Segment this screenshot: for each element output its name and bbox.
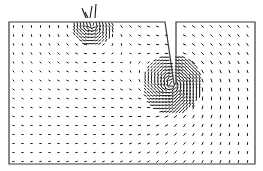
protruding-arrows <box>82 4 96 18</box>
vector-field-figure <box>0 0 263 171</box>
domain-boundary <box>9 22 255 164</box>
field-arrows <box>13 22 248 162</box>
vector-field-plot <box>0 0 263 171</box>
